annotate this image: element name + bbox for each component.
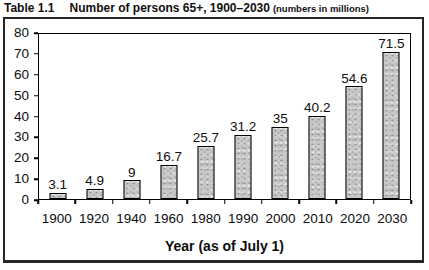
plot-area: 3.14.9916.725.731.23540.254.671.5 [38,33,411,200]
x-axis-ticks [38,200,411,204]
bar-value-label: 31.2 [230,120,256,135]
x-tick-label: 1920 [75,211,112,227]
x-tick-label: 2030 [374,211,411,227]
x-tick-label: 1990 [224,211,261,227]
x-axis-title: Year (as of July 1) [38,238,411,254]
page: Table 1.1Number of persons 65+, 1900–203… [0,0,429,270]
title-text: Number of persons 65+, 1900–2030 [69,1,269,15]
x-axis-labels: 1900192019401960198019902000201020202030 [38,211,411,227]
y-tick-label: 40 [14,110,29,124]
chart-frame: 80706050403020100 3.14.9916.725.731.2354… [3,17,424,263]
x-tick-label: 1960 [150,211,187,227]
x-tick-label: 1980 [187,211,224,227]
x-tick-label: 2020 [336,211,373,227]
title-unit-note: (numbers in millions) [273,3,369,14]
bar-1980: 25.7 [197,146,214,199]
x-tick-label: 2010 [299,211,336,227]
x-tick-mark [261,200,263,204]
bar-value-label: 3.1 [48,178,67,193]
y-tick-label: 10 [14,172,29,186]
table-number: Table 1.1 [4,1,54,15]
x-tick-mark [224,200,226,204]
y-tick-label: 50 [14,89,29,103]
bar-1960: 16.7 [160,165,177,199]
bar-2030: 71.5 [383,52,400,199]
x-tick-label: 2000 [262,211,299,227]
bar-value-label: 4.9 [85,174,104,189]
y-tick-label: 20 [14,152,29,166]
bar-2020: 54.6 [346,86,363,199]
bar-value-label: 40.2 [304,101,330,116]
x-tick-mark [410,200,412,204]
x-tick-mark [75,200,77,204]
y-tick-label: 70 [14,47,29,61]
bar-value-label: 25.7 [193,131,219,146]
bar-1920: 4.9 [86,189,103,199]
y-tick-label: 60 [14,68,29,82]
x-tick-mark [373,200,375,204]
x-tick-mark [149,200,151,204]
y-tick-label: 80 [14,26,29,40]
x-tick-label: 1940 [113,211,150,227]
bar-1990: 31.2 [235,135,252,199]
chart-title: Table 1.1Number of persons 65+, 1900–203… [4,1,369,15]
bar-1940: 9 [123,180,140,199]
bar-value-label: 9 [128,166,136,181]
bar-value-label: 16.7 [156,150,182,165]
x-tick-mark [186,200,188,204]
bar-value-label: 54.6 [341,72,367,87]
bar-1900: 3.1 [49,193,66,199]
x-tick-mark [298,200,300,204]
x-tick-label: 1900 [38,211,75,227]
y-axis: 80706050403020100 [5,33,38,200]
bar-2000: 35 [272,127,289,199]
y-tick-label: 30 [14,131,29,145]
x-tick-mark [112,200,114,204]
x-tick-mark [336,200,338,204]
bar-value-label: 35 [273,112,288,127]
y-tick-label: 0 [21,193,29,207]
bar-value-label: 71.5 [378,37,404,52]
bar-2010: 40.2 [309,116,326,199]
x-tick-mark [37,200,39,204]
